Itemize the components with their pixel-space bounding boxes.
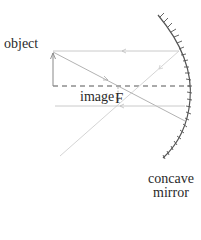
- focal-point-label: F: [115, 91, 123, 105]
- object-label: object: [4, 37, 38, 51]
- mirror-label: concave mirror: [148, 172, 194, 200]
- mirror-label-line2: mirror: [148, 186, 194, 200]
- mirror-label-line1: concave: [148, 172, 194, 186]
- image-label: image: [80, 90, 114, 104]
- ray-reflected-parallel: [55, 105, 185, 121]
